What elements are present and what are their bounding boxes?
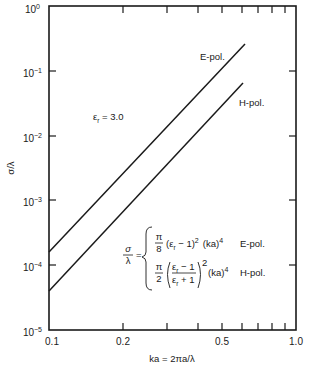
svg-text:10−2: 10−2	[23, 132, 42, 144]
svg-text:π: π	[156, 261, 163, 272]
svg-text:σ: σ	[125, 243, 132, 254]
e-pol-label: E-pol.	[200, 51, 225, 62]
svg-text:0.2: 0.2	[116, 336, 130, 347]
svg-text:λ: λ	[126, 255, 131, 266]
x-tick-labels: 0.1 0.2 0.5 1.0	[45, 336, 303, 347]
svg-text:10−5: 10−5	[23, 326, 42, 338]
y-tick-labels: 100 10−1 10−2 10−3 10−4 10−5	[23, 3, 42, 338]
svg-text:0.1: 0.1	[45, 336, 59, 347]
svg-text:(εr − 1)2(ka)4: (εr − 1)2(ka)4	[166, 237, 223, 251]
svg-text:H-pol.: H-pol.	[240, 267, 265, 278]
e-pol-line	[49, 44, 245, 252]
svg-text:2: 2	[156, 273, 161, 284]
svg-text:2: 2	[202, 257, 207, 268]
svg-text:εr + 1: εr + 1	[172, 274, 195, 287]
x-axis-label: ka = 2πa/λ	[149, 353, 195, 364]
svg-text:(ka)4: (ka)4	[208, 266, 228, 278]
svg-text:π: π	[156, 231, 163, 242]
svg-text:8: 8	[156, 243, 161, 254]
svg-text:100: 100	[25, 3, 40, 15]
svg-text:10−1: 10−1	[23, 67, 42, 79]
svg-text:E-pol.: E-pol.	[240, 238, 265, 249]
y-axis-label: σ/λ	[5, 161, 16, 175]
svg-text:10−4: 10−4	[23, 261, 42, 273]
rayleigh-formula: σ λ = π 8 (εr − 1)2(ka)4 E-pol. π 2 εr −…	[123, 227, 265, 290]
svg-text:εr − 1: εr − 1	[172, 261, 195, 274]
h-pol-label: H-pol.	[239, 97, 264, 108]
svg-text:=: =	[136, 249, 142, 260]
svg-text:1.0: 1.0	[289, 336, 303, 347]
brace-icon	[142, 227, 152, 290]
svg-text:0.5: 0.5	[215, 336, 229, 347]
permittivity-label: εr = 3.0	[93, 111, 123, 124]
scattering-chart: 100 10−1 10−2 10−3 10−4 10−5 0.1 0.2 0.5…	[0, 0, 309, 368]
svg-text:10−3: 10−3	[23, 196, 42, 208]
